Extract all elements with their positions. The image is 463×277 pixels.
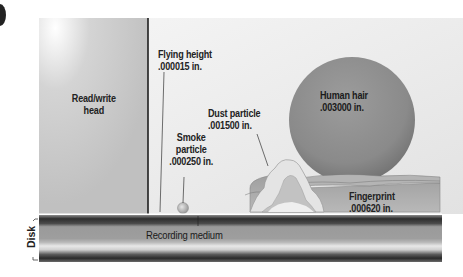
disk-label: Disk	[25, 226, 37, 248]
diagram-illustration	[0, 0, 463, 277]
disk-bracket-bottom	[33, 257, 38, 260]
human-hair-label: Human hair .003000 in.	[320, 89, 368, 113]
smoke-particle-label: Smoke particle .000250 in.	[168, 131, 214, 167]
dust-particle-label: Dust particle .001500 in.	[208, 107, 260, 131]
read-write-head	[39, 18, 148, 214]
recording-medium-label: Recording medium	[146, 229, 223, 241]
smoke-particle-shape	[178, 203, 189, 214]
disk-bracket-top	[33, 219, 38, 221]
fingerprint-label: Fingerprint .000620 in.	[349, 190, 395, 214]
flying-height-label: Flying height .000015 in.	[158, 48, 212, 72]
human-hair-shape	[289, 57, 415, 183]
disk-platter	[39, 215, 442, 262]
diagram-canvas: Read/write head Flying height .000015 in…	[0, 0, 463, 277]
head-label: Read/write head	[68, 92, 120, 116]
